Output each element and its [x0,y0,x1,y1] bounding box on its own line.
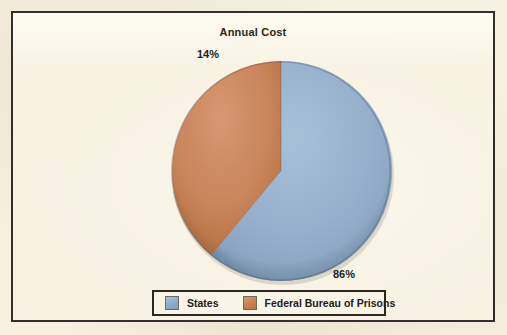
figure-frame: Annual Cost [11,11,495,322]
data-label-federal-bureau-of-prisons: 14% [197,48,219,60]
pie-chart [160,50,402,292]
legend-item-label: Federal Bureau of Prisons [265,297,396,309]
chart-legend: States Federal Bureau of Prisons [152,290,386,316]
page-title: Annual Cost [13,26,493,38]
legend-item-states[interactable]: States [165,292,219,314]
color-swatch-icon [243,296,257,310]
pie-chart-svg [160,50,402,292]
chart-screenshot: Annual Cost [0,0,507,335]
legend-item-label: States [187,297,219,309]
color-swatch-icon [165,296,179,310]
data-label-states: 86% [333,268,355,280]
legend-item-federal-bureau-of-prisons[interactable]: Federal Bureau of Prisons [243,292,396,314]
